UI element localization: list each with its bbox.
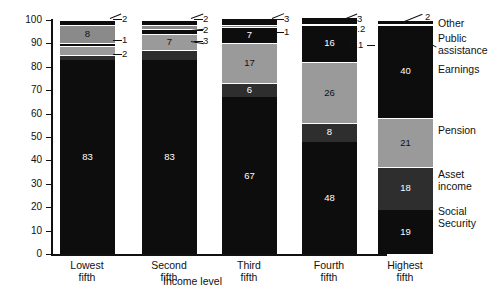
y-axis-tick bbox=[46, 254, 51, 255]
legend-item-asset-income: Assetincome bbox=[438, 169, 472, 192]
y-axis-tick-label: 90 bbox=[8, 38, 42, 48]
bar-segment-value: 19 bbox=[378, 227, 433, 237]
bar-second-fifth: 837 bbox=[142, 20, 197, 254]
y-axis-tick bbox=[46, 114, 51, 115]
x-axis-category-label: Highestfifth bbox=[370, 260, 440, 283]
y-axis-tick-label: 80 bbox=[8, 62, 42, 72]
bar-segment bbox=[60, 46, 115, 55]
y-axis-tick bbox=[46, 231, 51, 232]
bar-segment-value: 16 bbox=[302, 38, 357, 48]
y-axis-tick bbox=[46, 137, 51, 138]
callout-value: 0.1 bbox=[350, 40, 363, 50]
y-axis-tick-label: 50 bbox=[8, 132, 42, 142]
bar-segment bbox=[142, 29, 197, 34]
bar-fourth-fifth: 4882616 bbox=[302, 20, 357, 254]
y-axis-tick bbox=[46, 43, 51, 44]
bar-segment bbox=[142, 25, 197, 30]
y-axis-tick-label: 60 bbox=[8, 109, 42, 119]
bar-lowest-fifth: 838 bbox=[60, 20, 115, 254]
y-axis-tick bbox=[46, 20, 51, 21]
plot-area: 838837676177488261619182140 bbox=[52, 20, 385, 254]
callout-value: 3 bbox=[284, 14, 289, 24]
callout-value: 2 bbox=[425, 12, 430, 22]
bar-segment-value: 8 bbox=[60, 29, 115, 39]
bar-segment-value: 21 bbox=[378, 138, 433, 148]
callout-leader-line bbox=[194, 19, 203, 20]
legend-item-label: Public bbox=[438, 33, 488, 45]
x-axis-line bbox=[51, 254, 387, 256]
callout-value: 1 bbox=[284, 27, 289, 37]
callout-leader-line bbox=[113, 54, 122, 55]
bar-segment-value: 7 bbox=[222, 30, 277, 40]
x-axis-category-label-line: fifth bbox=[214, 272, 284, 284]
callout-value: 2 bbox=[122, 49, 127, 59]
bar-segment-value: 17 bbox=[222, 58, 277, 68]
x-axis-category-label-line: Second bbox=[134, 260, 204, 272]
callout-value: 2 bbox=[203, 25, 208, 35]
legend-item-label: Pension bbox=[438, 125, 476, 137]
legend-item-label: Social bbox=[438, 206, 476, 218]
x-axis-category-label: Secondfifth bbox=[134, 260, 204, 283]
legend-item-label: Asset bbox=[438, 169, 472, 181]
x-axis-category-label: Lowestfifth bbox=[52, 260, 122, 283]
y-axis-tick-label: 100 bbox=[8, 15, 42, 25]
legend-item-pension: Pension bbox=[438, 125, 476, 137]
callout-leader-line bbox=[349, 19, 357, 20]
bar-third-fifth: 676177 bbox=[222, 20, 277, 254]
bar-segment bbox=[60, 55, 115, 60]
callout-value: 0.2 bbox=[352, 24, 365, 34]
callout-leader-line bbox=[275, 19, 284, 20]
x-axis-category-label-line: Highest bbox=[370, 260, 440, 272]
bar-segment bbox=[142, 20, 197, 25]
y-axis-tick-label: 10 bbox=[8, 226, 42, 236]
bar-segment-value: 7 bbox=[142, 37, 197, 47]
x-axis-category-label-line: fifth bbox=[294, 272, 364, 284]
y-axis-tick bbox=[46, 90, 51, 91]
y-axis-tick bbox=[46, 184, 51, 185]
callout-leader-line bbox=[113, 19, 122, 20]
x-axis-category-label-line: fifth bbox=[134, 272, 204, 284]
callout-value: 2 bbox=[203, 14, 208, 24]
bar-segment bbox=[60, 43, 115, 45]
bar-segment-value: 83 bbox=[60, 152, 115, 162]
bar-segment-value: 83 bbox=[142, 152, 197, 162]
bar-segment-value: 40 bbox=[378, 66, 433, 76]
callout-leader-line bbox=[367, 45, 375, 46]
legend-item-earnings: Earnings bbox=[438, 64, 479, 76]
bar-segment-value: 18 bbox=[378, 183, 433, 193]
x-axis-category-label-line: fifth bbox=[52, 272, 122, 284]
legend-item-label: income bbox=[438, 181, 472, 193]
x-axis-category-label-line: Lowest bbox=[52, 260, 122, 272]
bar-segment bbox=[60, 20, 115, 25]
y-axis-tick-label: 40 bbox=[8, 155, 42, 165]
bar-segment bbox=[142, 50, 197, 59]
callout-leader-line bbox=[275, 32, 284, 33]
legend-item-label: assistance bbox=[438, 45, 488, 57]
x-axis-category-label-line: Third bbox=[214, 260, 284, 272]
y-axis-tick bbox=[46, 207, 51, 208]
bar-segment-value: 67 bbox=[222, 171, 277, 181]
x-axis-category-label-line: Fourth bbox=[294, 260, 364, 272]
y-axis-tick-label: 30 bbox=[8, 179, 42, 189]
callout-leader-line bbox=[113, 40, 122, 41]
bar-segment bbox=[222, 25, 277, 27]
y-axis-tick bbox=[46, 160, 51, 161]
callout-value: 3 bbox=[203, 36, 208, 46]
x-axis-category-label: Thirdfifth bbox=[214, 260, 284, 283]
bar-segment-value: 8 bbox=[302, 127, 357, 137]
x-axis-category-label-line: fifth bbox=[370, 272, 440, 284]
y-axis-tick-label: 70 bbox=[8, 85, 42, 95]
callout-value: 1 bbox=[122, 35, 127, 45]
legend-item-label: Earnings bbox=[438, 64, 479, 76]
chart-figure: Percent Income level 0102030405060708090… bbox=[0, 0, 492, 293]
y-axis-tick bbox=[46, 67, 51, 68]
bar-segment-value: 6 bbox=[222, 85, 277, 95]
x-axis-category-label: Fourthfifth bbox=[294, 260, 364, 283]
bar-highest-fifth: 19182140 bbox=[378, 20, 433, 254]
y-axis-tick-label: 0 bbox=[8, 249, 42, 259]
bar-segment-value: 26 bbox=[302, 88, 357, 98]
y-axis-tick-label: 20 bbox=[8, 202, 42, 212]
legend-item-label: Other bbox=[438, 18, 464, 30]
bar-segment bbox=[222, 18, 277, 25]
legend-item-social-security: SocialSecurity bbox=[438, 206, 476, 229]
